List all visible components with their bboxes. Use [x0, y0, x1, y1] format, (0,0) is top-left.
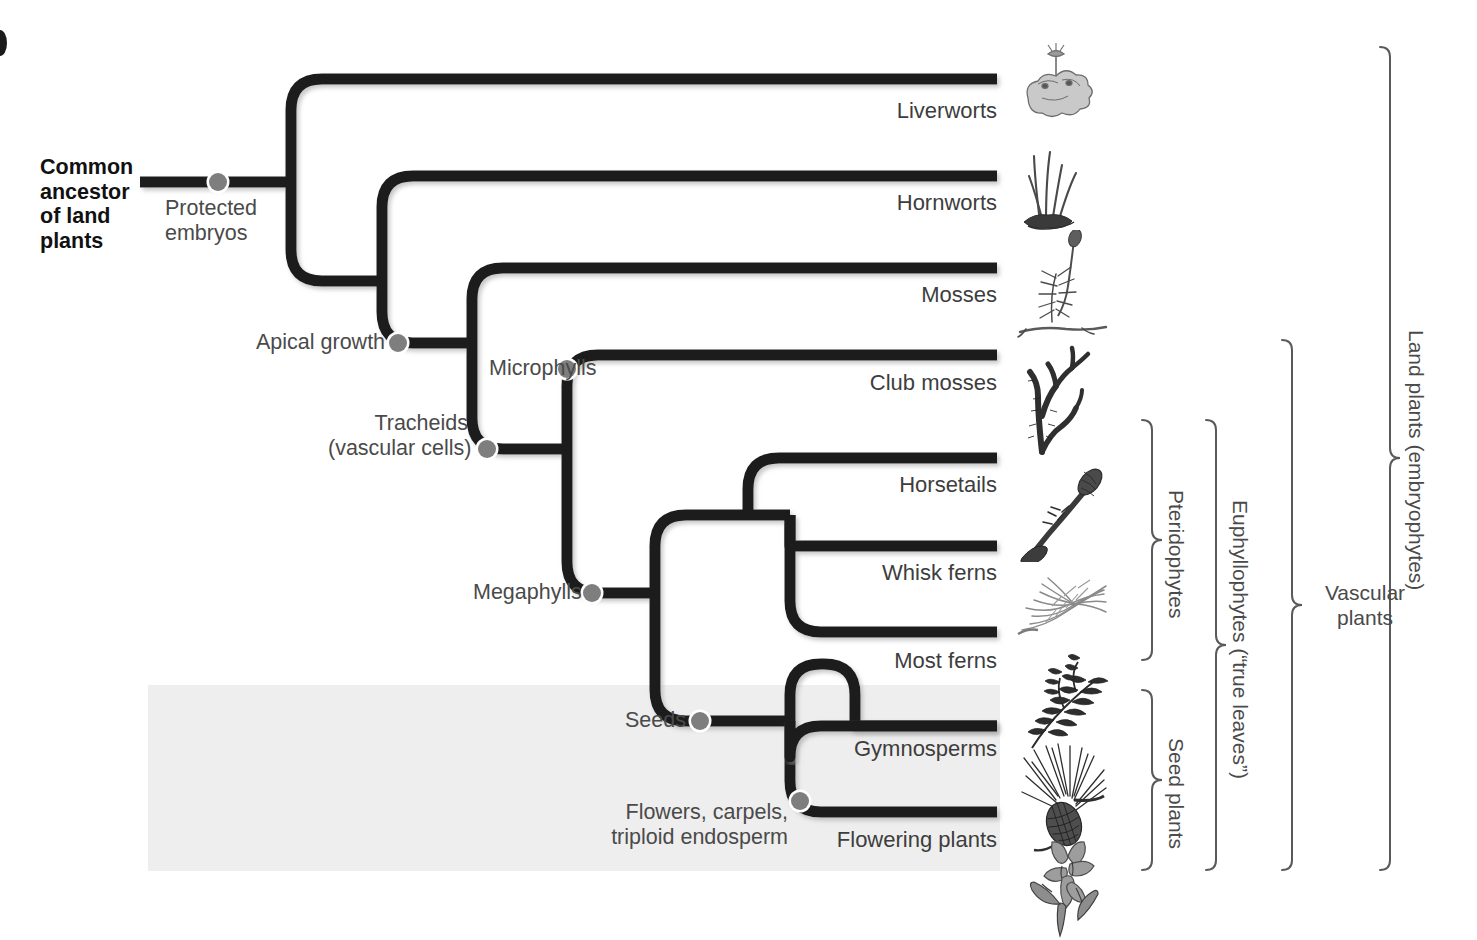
clade-label-pteridophytes: Pteridophytes	[1164, 490, 1188, 618]
taxon-label-horsetails: Horsetails	[697, 472, 997, 498]
synapomorphy-label-protected-embryos: Protected embryos	[165, 196, 257, 246]
taxon-label-gymnosperms: Gymnosperms	[697, 736, 997, 762]
plant-illustration-column	[1012, 40, 1120, 880]
taxon-label-mosses: Mosses	[697, 282, 997, 308]
synapomorphy-label-megaphylls: Megaphylls	[473, 580, 582, 605]
taxon-label-most-ferns: Most ferns	[697, 648, 997, 674]
synapomorphy-label-microphylls: Microphylls	[489, 356, 597, 381]
synapomorphy-label-tracheids: Tracheids (vascular cells)	[328, 411, 468, 461]
clade-label-land-plants: Land plants (embryophytes)	[1404, 330, 1428, 590]
synapomorphy-label-seeds: Seeds	[625, 708, 686, 733]
clade-label-seed-plants: Seed plants	[1164, 738, 1188, 849]
clade-label-euphyllophytes: Euphyllophytes (“true leaves”)	[1228, 500, 1252, 779]
bracket-land-plants	[1380, 47, 1400, 870]
bracket-seed-plants	[1142, 690, 1162, 870]
bracket-euphyllophytes	[1206, 420, 1226, 870]
flowering-plant-illustration	[1012, 828, 1116, 940]
liverwort-illustration	[1012, 40, 1116, 140]
taxon-label-whisk-ferns: Whisk ferns	[697, 560, 997, 586]
taxon-label-flowering-plants: Flowering plants	[697, 827, 997, 853]
club-moss-illustration	[1012, 340, 1116, 458]
bracket-pteridophytes	[1142, 420, 1162, 660]
hornwort-illustration	[1012, 126, 1116, 238]
fern-illustration	[1012, 634, 1116, 754]
moss-illustration	[1012, 230, 1116, 346]
root-ancestor-label: Common ancestor of land plants	[40, 155, 133, 253]
synapomorphy-label-apical-growth: Apical growth	[256, 330, 385, 355]
taxon-label-hornworts: Hornworts	[697, 190, 997, 216]
taxon-label-club-mosses: Club mosses	[697, 370, 997, 396]
bracket-vascular-plants	[1282, 340, 1302, 870]
taxon-label-liverworts: Liverworts	[697, 98, 997, 124]
